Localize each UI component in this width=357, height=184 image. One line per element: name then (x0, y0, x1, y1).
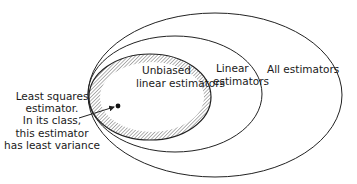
all-estimators-label: All estimators (267, 63, 339, 75)
estimators-venn-diagram: All estimators Linear estimators Unbiase… (0, 0, 357, 184)
unbiased-label-line1: Unbiased (142, 64, 191, 76)
callout-line-3: In its class, (23, 114, 81, 126)
unbiased-label-line2: linear estimators (136, 77, 225, 89)
callout-line-4: this estimator (16, 127, 90, 139)
callout-line-1: Least squares (16, 90, 89, 102)
callout-line-5: has least variance (4, 139, 100, 151)
linear-estimators-label-line1: Linear (216, 62, 249, 74)
callout-line-2: estimator. (26, 102, 79, 114)
least-squares-point (116, 104, 121, 109)
least-squares-callout: Least squares estimator. In its class, t… (4, 90, 100, 151)
